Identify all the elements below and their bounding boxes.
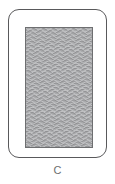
figure-root: C bbox=[0, 0, 115, 184]
wavy-lines-pattern-icon bbox=[26, 28, 92, 147]
figure-caption: C bbox=[0, 163, 115, 177]
wavy-texture-panel bbox=[25, 27, 93, 148]
rounded-device-outline bbox=[8, 9, 107, 158]
